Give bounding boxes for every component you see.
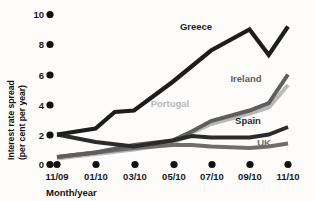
series-label-spain: Spain [235,115,261,126]
series-lines [57,27,288,159]
y-tick-label-4: 4 [39,100,45,111]
y-axis-title: Interest rate spread (per cent per year) [6,80,27,160]
series-label-greece: Greece [180,21,212,32]
x-tick-label-6: 11/10 [276,171,299,182]
y-tick-label-10: 10 [33,9,44,20]
y-tick-dot-8 [46,41,53,48]
x-tick-label-1: 01/10 [84,171,108,182]
x-tick-label-0: 11/09 [45,171,68,182]
y-tick-label-0: 0 [39,159,44,170]
y-tick-label-8: 8 [39,39,44,50]
x-tick-dot-03-10 [131,161,138,168]
series-label-uk: UK [257,137,271,148]
y-tick-label-6: 6 [39,70,44,81]
x-tick-dot-11-10 [284,161,291,168]
x-tick-dot-05-10 [170,161,177,168]
x-tick-dot-07-10 [208,161,215,168]
y-axis-title-line1: Interest rate spread [6,80,16,160]
x-tick-dot-11-09 [53,161,60,168]
y-tick-dot-4 [46,101,53,108]
x-tick-label-4: 07/10 [200,171,224,182]
y-tick-label-2: 2 [39,130,44,141]
y-axis-title-line2: (per cent per year) [17,85,27,160]
series-label-ireland: Ireland [230,73,261,84]
y-tick-dot-0 [46,161,53,168]
y-tick-dot-2 [46,131,53,138]
y-tick-dot-6 [46,71,53,78]
y-axis: 10 8 6 4 2 0 [33,9,53,170]
x-tick-label-2: 03/10 [123,171,147,182]
x-tick-label-5: 09/10 [238,171,262,182]
x-tick-dot-09-10 [246,161,253,168]
series-label-portugal: Portugal [151,98,190,109]
chart-canvas: 10 8 6 4 2 0 Interest rate spread (per c… [0,0,316,201]
x-axis-ticks [53,161,291,168]
x-axis-title: Month/year [46,187,97,198]
line-chart-container: 10 8 6 4 2 0 Interest rate spread (per c… [0,0,316,201]
x-tick-dot-01-10 [92,161,99,168]
x-tick-label-3: 05/10 [162,171,186,182]
x-axis-labels: 11/09 01/10 03/10 05/10 07/10 09/10 11/1… [45,171,299,182]
y-tick-dot-10 [46,11,53,18]
